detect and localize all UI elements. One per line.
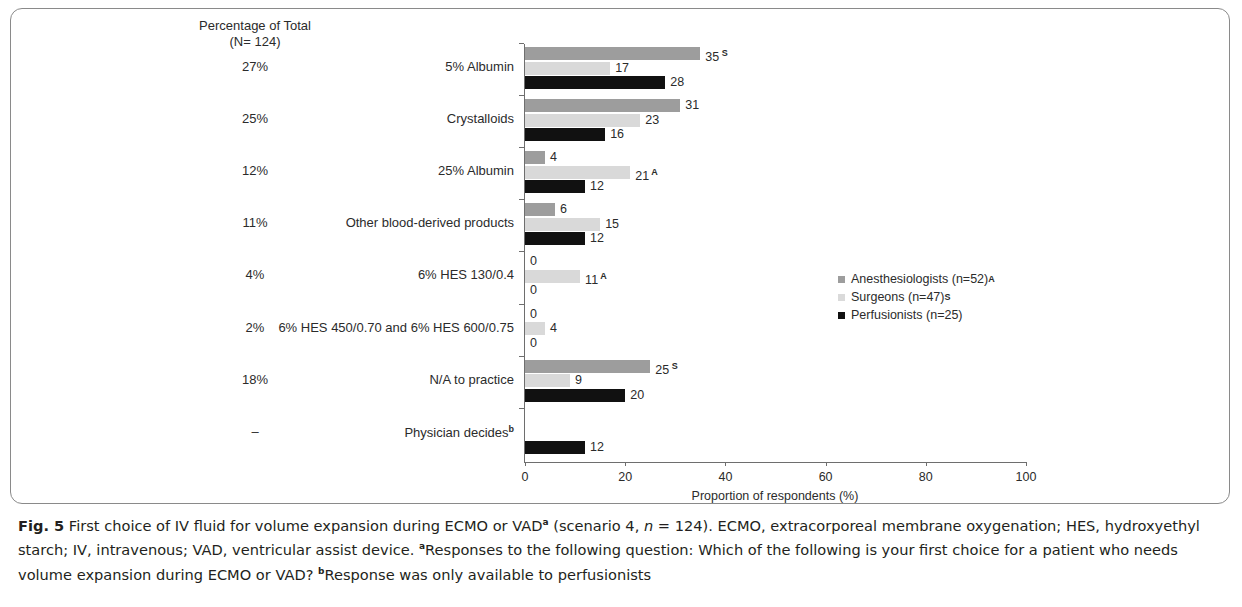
category-label: N/A to practice xyxy=(190,372,520,387)
bar-perf xyxy=(525,128,605,141)
bar-value-label: 0 xyxy=(530,337,537,350)
legend-swatch-surgeons-icon xyxy=(838,294,845,301)
y-axis-category-tick xyxy=(519,199,524,200)
bar-value-label: 35 S xyxy=(705,47,727,60)
y-axis-category-tick xyxy=(519,304,524,305)
bar-value-label: 28 xyxy=(670,76,684,89)
bar-value-label: 11 A xyxy=(585,270,607,283)
percentage-header-line1: Percentage of Total xyxy=(180,18,330,34)
bar-surg xyxy=(525,322,545,335)
bar-value-label: 6 xyxy=(560,203,567,216)
bar-anes xyxy=(525,203,555,216)
bar-perf xyxy=(525,232,585,245)
bar-anes xyxy=(525,47,700,60)
category-label: 6% HES 130/0.4 xyxy=(190,267,520,282)
bar-value-label: 4 xyxy=(550,151,557,164)
bar-value-label: 0 xyxy=(530,284,537,297)
x-axis-tick-label: 60 xyxy=(819,470,833,484)
bar-value-label: 4 xyxy=(550,322,557,335)
bar-significance-marker: S xyxy=(719,48,728,58)
bar-surg xyxy=(525,374,570,387)
percentage-column-header: Percentage of Total (N= 124) xyxy=(180,18,330,50)
caption-italic-n: n xyxy=(644,517,653,534)
x-axis-line xyxy=(524,462,1026,463)
y-axis-category-tick xyxy=(519,356,524,357)
legend-swatch-perfusionists-icon xyxy=(838,312,845,319)
caption-part-2: (scenario 4, xyxy=(549,517,644,534)
legend-swatch-anesthesiologists-icon xyxy=(838,276,845,283)
caption-part-5: Response was only available to perfusion… xyxy=(325,566,652,583)
legend-item-anesthesiologists: Anesthesiologists (n=52)A xyxy=(838,270,995,288)
bar-surg xyxy=(525,166,630,179)
figure-caption: Fig. 5 First choice of IV fluid for volu… xyxy=(18,512,1228,585)
bar-surg xyxy=(525,270,580,283)
y-axis-category-tick xyxy=(519,95,524,96)
bar-surg xyxy=(525,218,600,231)
bar-significance-marker: A xyxy=(598,271,607,281)
y-axis-category-tick xyxy=(519,147,524,148)
bar-value-label: 12 xyxy=(590,232,604,245)
category-label: 25% Albumin xyxy=(190,163,520,178)
bar-value-label: 12 xyxy=(590,180,604,193)
bar-surg xyxy=(525,114,640,127)
category-label: Physician decidesb xyxy=(190,424,520,440)
figure-container: Percentage of Total (N= 124) Proportion … xyxy=(0,0,1242,607)
bar-value-label: 17 xyxy=(615,62,629,75)
bar-value-label: 15 xyxy=(605,218,619,231)
y-axis-category-tick xyxy=(519,43,524,44)
bar-perf xyxy=(525,76,665,89)
category-label: Crystalloids xyxy=(190,111,520,126)
x-axis-tick-label: 80 xyxy=(919,470,933,484)
x-axis-tick-label: 20 xyxy=(618,470,632,484)
category-label-superscript: b xyxy=(509,424,515,434)
bar-value-label: 31 xyxy=(685,99,699,112)
x-axis-tick xyxy=(826,462,827,466)
legend-marker-surgeons: S xyxy=(944,292,950,302)
legend-label-surgeons: Surgeons (n=47) xyxy=(851,290,944,304)
y-axis-category-tick xyxy=(519,251,524,252)
bar-value-label: 16 xyxy=(610,128,624,141)
chart-plot-area: Percentage of Total (N= 124) Proportion … xyxy=(0,0,1242,500)
bar-anes xyxy=(525,360,650,373)
x-axis-tick-label: 40 xyxy=(718,470,732,484)
bar-value-label: 20 xyxy=(630,389,644,402)
bar-value-label: 0 xyxy=(530,308,537,321)
legend-label-anesthesiologists: Anesthesiologists (n=52) xyxy=(851,272,988,286)
x-axis-tick xyxy=(525,462,526,466)
caption-part-1: First choice of IV fluid for volume expa… xyxy=(64,517,542,534)
bar-anes xyxy=(525,151,545,164)
caption-figure-label: Fig. 5 xyxy=(18,517,64,534)
legend-item-surgeons: Surgeons (n=47)S xyxy=(838,288,995,306)
category-label: Other blood-derived products xyxy=(190,215,520,230)
legend-label-perfusionists: Perfusionists (n=25) xyxy=(851,308,963,322)
bar-value-label: 9 xyxy=(575,374,582,387)
bar-value-label: 25 S xyxy=(655,360,677,373)
x-axis-tick-label: 0 xyxy=(522,470,529,484)
bar-value-label: 0 xyxy=(530,255,537,268)
bar-value-label: 23 xyxy=(645,114,659,127)
percentage-header-line2: (N= 124) xyxy=(180,34,330,50)
bar-anes xyxy=(525,99,680,112)
bar-significance-marker: S xyxy=(669,361,678,371)
category-label: 6% HES 450/0.70 and 6% HES 600/0.75 xyxy=(190,320,520,335)
legend-marker-anesthesiologists: A xyxy=(988,274,995,284)
bar-perf xyxy=(525,180,585,193)
bar-surg xyxy=(525,62,610,75)
bar-value-label: 21 A xyxy=(635,166,658,179)
category-label: 5% Albumin xyxy=(190,59,520,74)
y-axis-category-tick xyxy=(519,408,524,409)
x-axis-tick xyxy=(625,462,626,466)
x-axis-tick xyxy=(1026,462,1027,466)
x-axis-tick-label: 100 xyxy=(1016,470,1037,484)
bar-perf xyxy=(525,441,585,454)
bar-perf xyxy=(525,389,625,402)
bar-significance-marker: A xyxy=(649,167,658,177)
x-axis-title: Proportion of respondents (%) xyxy=(524,489,1026,503)
x-axis-tick xyxy=(926,462,927,466)
x-axis-tick xyxy=(725,462,726,466)
bar-value-label: 12 xyxy=(590,441,604,454)
legend-item-perfusionists: Perfusionists (n=25) xyxy=(838,306,995,324)
chart-legend: Anesthesiologists (n=52)A Surgeons (n=47… xyxy=(838,270,995,324)
